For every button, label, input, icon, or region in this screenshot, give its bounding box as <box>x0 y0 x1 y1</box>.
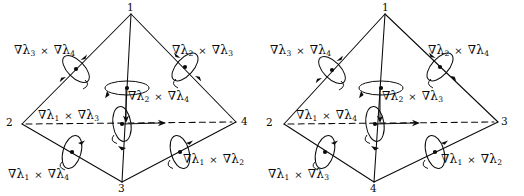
curl-label-left-bottom-left: ∇λ1 × ∇λ4 <box>8 167 69 181</box>
curl-label-right-bottom-left: ∇λ1 × ∇λ3 <box>268 167 329 181</box>
curl-label-right-middle-left: ∇λ1 × ∇λ4 <box>296 108 357 122</box>
curl-label-left-bottom-right: ∇λ1 × ∇λ2 <box>183 152 244 166</box>
curl-label-right-bottom-right: ∇λ1 × ∇λ2 <box>441 152 502 166</box>
curl-arrowhead-2-4 <box>118 146 126 151</box>
curl-arrowhead2-1-2 <box>316 78 322 83</box>
curl-dot-2-3 <box>70 150 74 154</box>
vertex-label-right-apex: 1 <box>382 1 389 13</box>
curl-label-left-center: ∇λ2 × ∇λ4 <box>128 89 189 103</box>
vertex-label-left-left: 2 <box>6 116 13 128</box>
curl-label-left-top-right: ∇λ2 × ∇λ3 <box>172 43 233 57</box>
curl-arc-1-2 <box>339 81 344 90</box>
curl-label-right-top-left: ∇λ3 × ∇λ4 <box>270 43 331 57</box>
vertex-label-left-apex: 1 <box>127 1 134 13</box>
curl-dot-1-2 <box>330 68 334 72</box>
curl-arc-3-4 <box>423 160 428 169</box>
curl-label-right-center: ∇λ2 × ∇λ3 <box>382 89 443 103</box>
curl-dot-1-3 <box>438 65 442 69</box>
curl-label-left-top-left: ∇λ3 × ∇λ4 <box>14 43 75 57</box>
tetrahedron-figure: 1 2 3 4 ∇λ3 × ∇λ4 ∇λ2 × ∇λ3 ∇λ2 × ∇λ4 ∇λ… <box>0 0 524 196</box>
curl-dot-1-4 <box>183 65 187 69</box>
vertex-label-left-bottom: 3 <box>118 182 125 194</box>
curl-arc-3-4 <box>168 160 173 169</box>
vertex-label-left-right: 4 <box>241 115 248 127</box>
curl-arrowhead2-1-2 <box>60 77 66 82</box>
curl-label-left-middle-left: ∇λ1 × ∇λ3 <box>38 108 99 122</box>
vertex-label-right-bottom: 4 <box>370 182 377 194</box>
curl-dot-2-4 <box>323 150 327 154</box>
curl-arc-1-2 <box>83 80 88 89</box>
curl-dot-1-2 <box>74 67 78 71</box>
curl-dot-3-4 <box>433 150 437 154</box>
curl-label-right-top-right: ∇λ2 × ∇λ4 <box>428 43 489 57</box>
curl-arrowhead-2-3 <box>371 146 379 151</box>
curl-dot-3-4 <box>178 150 182 154</box>
vertex-label-right-right: 3 <box>501 115 508 127</box>
vertex-label-right-left: 2 <box>266 116 273 128</box>
